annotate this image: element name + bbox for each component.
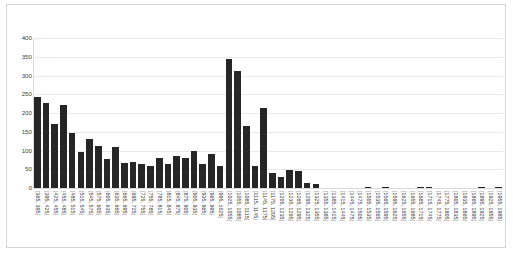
bar-slot — [338, 38, 347, 188]
bar-slot — [190, 38, 199, 188]
x-tick-slot: [695, 725] — [129, 191, 138, 253]
bar-slot — [59, 38, 68, 188]
bar-slot — [303, 38, 312, 188]
bar-slot — [251, 38, 260, 188]
bar-slot — [111, 38, 120, 188]
bar-slot — [312, 38, 321, 188]
x-tick-label: [1445, 1475] — [348, 191, 353, 221]
x-tick-slot: [935, 965] — [198, 191, 207, 253]
x-tick-slot: [1775, 1805] — [442, 191, 451, 253]
bar — [86, 139, 93, 188]
bar — [130, 162, 137, 188]
x-tick-slot: [455, 485] — [59, 191, 68, 253]
bar — [217, 166, 224, 188]
x-tick-slot: [1865, 1895] — [468, 191, 477, 253]
bar — [208, 154, 215, 188]
bar-slot — [277, 38, 286, 188]
x-tick-label: [1835, 1865] — [461, 191, 466, 221]
y-tick-label: 50 — [25, 166, 32, 172]
bar — [495, 187, 502, 188]
x-tick-label: [1925, 1955] — [487, 191, 492, 221]
y-tick-label: 0 — [29, 185, 32, 191]
bar — [278, 177, 285, 188]
x-tick-label: [965, 995] — [209, 191, 214, 215]
bar — [234, 71, 241, 188]
x-tick-slot: [1385, 1415] — [329, 191, 338, 253]
bar-slot — [329, 38, 338, 188]
bar-slot — [433, 38, 442, 188]
bar — [78, 152, 85, 188]
x-tick-slot: [1745, 1775] — [433, 191, 442, 253]
x-tick-label: [365, 395] — [35, 191, 40, 215]
bar-slot — [85, 38, 94, 188]
x-tick-label: [1265, 1295] — [296, 191, 301, 221]
bar-slot — [285, 38, 294, 188]
bar — [191, 151, 198, 189]
bar-series — [33, 38, 503, 188]
x-tick-slot: [635, 665] — [111, 191, 120, 253]
y-tick-label: 250 — [22, 91, 32, 97]
x-tick-slot: [1685, 1715] — [416, 191, 425, 253]
y-tick-label: 400 — [22, 35, 32, 41]
y-axis-tick-labels: 050100150200250300350400 — [8, 30, 32, 198]
bar-slot — [198, 38, 207, 188]
bar-slot — [155, 38, 164, 188]
x-tick-slot: [815, 845] — [164, 191, 173, 253]
bar-slot — [164, 38, 173, 188]
x-tick-slot: [1805, 1835] — [451, 191, 460, 253]
x-tick-label: [575, 605] — [96, 191, 101, 215]
y-tick-label: 300 — [22, 73, 32, 79]
bar-slot — [68, 38, 77, 188]
x-tick-label: [1745, 1775] — [435, 191, 440, 221]
y-tick-label: 200 — [22, 110, 32, 116]
x-tick-slot: [365, 395] — [33, 191, 42, 253]
bar-slot — [103, 38, 112, 188]
x-tick-slot: [1235, 1265] — [285, 191, 294, 253]
x-tick-label: [725, 755] — [139, 191, 144, 215]
x-tick-slot: [1355, 1385] — [320, 191, 329, 253]
bar-slot — [259, 38, 268, 188]
x-tick-label: [1505, 1535] — [365, 191, 370, 221]
bar-slot — [459, 38, 468, 188]
bar — [226, 59, 233, 188]
bar — [112, 147, 119, 188]
bar-slot — [207, 38, 216, 188]
bar — [252, 166, 259, 188]
bar-slot — [364, 38, 373, 188]
x-tick-slot: [605, 635] — [103, 191, 112, 253]
gridline — [33, 188, 503, 189]
x-tick-label: [665, 695] — [122, 191, 127, 215]
bar-slot — [355, 38, 364, 188]
x-tick-label: [1025, 1055] — [226, 191, 231, 221]
x-tick-label: [1775, 1805] — [444, 191, 449, 221]
histogram-chart: 050100150200250300350400 [365, 395][395,… — [0, 0, 513, 254]
bar-slot — [390, 38, 399, 188]
bar-slot — [33, 38, 42, 188]
x-tick-label: [545, 575] — [87, 191, 92, 215]
x-axis-tick-labels: [365, 395][395, 425][425, 455][455, 485]… — [33, 191, 503, 253]
x-tick-slot: [845, 875] — [172, 191, 181, 253]
bar-slot — [94, 38, 103, 188]
x-tick-label: [635, 665] — [113, 191, 118, 215]
bar — [365, 187, 372, 188]
x-tick-slot: [1505, 1535] — [364, 191, 373, 253]
x-tick-label: [1415, 1445] — [339, 191, 344, 221]
x-tick-label: [1865, 1895] — [470, 191, 475, 221]
bar — [199, 164, 206, 188]
x-tick-slot: [1595, 1625] — [390, 191, 399, 253]
y-tick-label: 100 — [22, 148, 32, 154]
x-tick-label: [395, 425] — [43, 191, 48, 215]
x-tick-slot: [665, 695] — [120, 191, 129, 253]
bar — [60, 105, 67, 188]
x-tick-label: [845, 875] — [174, 191, 179, 215]
bar-slot — [268, 38, 277, 188]
bar — [69, 133, 76, 188]
x-tick-slot: [1295, 1325] — [303, 191, 312, 253]
x-tick-slot: [1535, 1565] — [372, 191, 381, 253]
x-tick-slot: [1265, 1295] — [294, 191, 303, 253]
bar-slot — [320, 38, 329, 188]
x-tick-slot: [995, 1025] — [216, 191, 225, 253]
bar — [417, 187, 424, 188]
bar — [313, 184, 320, 188]
x-tick-slot: [395, 425] — [42, 191, 51, 253]
